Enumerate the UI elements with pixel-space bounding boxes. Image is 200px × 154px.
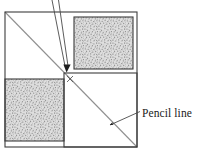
pencil-line-diagram: Pencil line bbox=[0, 0, 200, 154]
pencil-line-label: Pencil line bbox=[142, 107, 192, 119]
figure-container: Pencil line bbox=[0, 0, 200, 154]
quadrant-top-right-shaded bbox=[74, 17, 133, 69]
quadrant-bottom-left-shaded bbox=[5, 79, 64, 141]
leader-arrowhead-center bbox=[63, 65, 70, 73]
